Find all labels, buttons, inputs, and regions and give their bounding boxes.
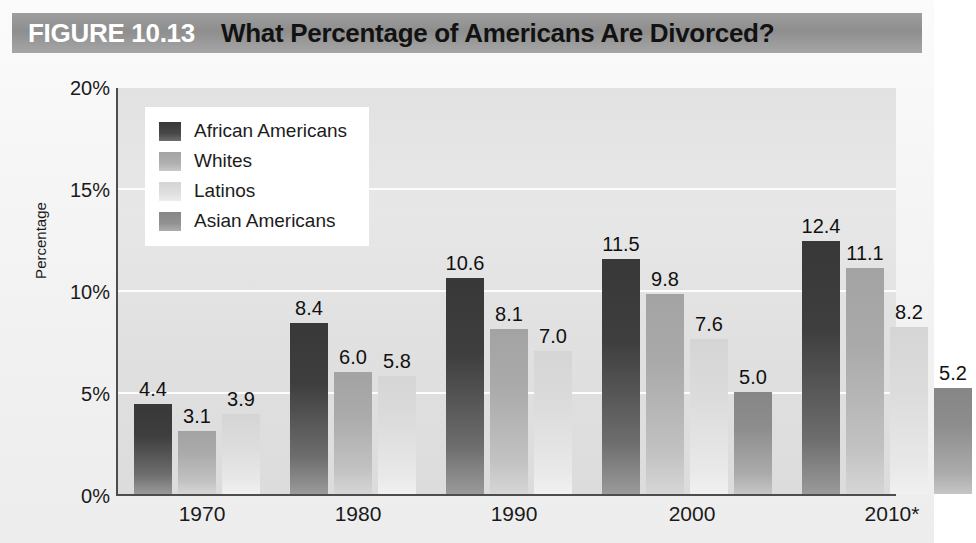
bar-fill [446,278,484,494]
bar-value: 12.4 [802,215,841,238]
y-tick-5: 5% [38,383,110,406]
bar-value: 8.4 [295,297,323,320]
legend-label: African Americans [194,120,347,142]
legend-swatch-latinos [159,182,181,201]
bar-fill [690,339,728,494]
y-tick-15: 15% [38,179,110,202]
bar-value: 3.1 [183,405,211,428]
bar-group-1990: 10.6 8.1 7.0 [446,88,586,494]
legend-swatch-asian-americans [159,212,181,231]
legend-label: Latinos [194,180,255,202]
bar-1970-african-americans[interactable]: 4.4 [134,404,172,494]
legend-label: Whites [194,150,252,172]
bar-1970-whites[interactable]: 3.1 [178,431,216,494]
bar-value: 6.0 [339,346,367,369]
bar-fill [602,259,640,494]
bar-value: 7.0 [539,325,567,348]
legend-item-whites[interactable]: Whites [159,146,359,176]
bar-2000-whites[interactable]: 9.8 [646,294,684,494]
legend-label: Asian Americans [194,210,336,232]
bar-1980-whites[interactable]: 6.0 [334,372,372,494]
bar-fill [334,372,372,494]
bar-fill [802,241,840,494]
bar-1990-latinos[interactable]: 7.0 [534,351,572,494]
bar-value: 10.6 [446,252,485,275]
bar-fill [178,431,216,494]
bar-value: 8.1 [495,303,523,326]
figure-title-bar: FIGURE 10.13 What Percentage of American… [12,13,922,53]
bar-fill [534,351,572,494]
bar-fill [134,404,172,494]
x-tick-1990: 1990 [491,502,538,526]
bar-fill [846,268,884,494]
x-tick-2010: 2010* [865,502,920,526]
y-tick-0: 0% [38,485,110,508]
bar-2010-whites[interactable]: 11.1 [846,268,884,494]
legend-item-latinos[interactable]: Latinos [159,176,359,206]
y-axis-ticks: 0% 5% 10% 15% 20% [38,0,110,543]
bar-2010-asian-americans[interactable]: 5.2 [934,388,972,494]
bar-value: 8.2 [895,301,923,324]
bar-1980-african-americans[interactable]: 8.4 [290,323,328,494]
bar-2000-latinos[interactable]: 7.6 [690,339,728,494]
bar-2010-african-americans[interactable]: 12.4 [802,241,840,494]
bar-2000-african-americans[interactable]: 11.5 [602,259,640,494]
x-tick-1970: 1970 [179,502,226,526]
bar-value: 3.9 [227,388,255,411]
bar-group-2000: 11.5 9.8 7.6 5.0 [602,88,786,494]
x-tick-2000: 2000 [669,502,716,526]
bar-fill [378,376,416,494]
x-tick-1980: 1980 [335,502,382,526]
bar-2000-asian-americans[interactable]: 5.0 [734,392,772,494]
bar-value: 9.8 [651,268,679,291]
bar-value: 4.4 [139,378,167,401]
bar-value: 11.5 [602,233,639,256]
bar-value: 11.1 [846,242,883,265]
legend-item-african-americans[interactable]: African Americans [159,116,359,146]
bar-1990-african-americans[interactable]: 10.6 [446,278,484,494]
figure-title: What Percentage of Americans Are Divorce… [221,18,774,49]
y-tick-20: 20% [38,77,110,100]
legend-item-asian-americans[interactable]: Asian Americans [159,206,359,236]
bar-fill [646,294,684,494]
bar-value: 5.0 [739,366,767,389]
bar-2010-latinos[interactable]: 8.2 [890,327,928,494]
bar-group-2010: 12.4 11.1 8.2 5.2 [802,88,976,494]
bar-fill [890,327,928,494]
bar-fill [222,414,260,494]
bar-1980-latinos[interactable]: 5.8 [378,376,416,494]
bar-fill [290,323,328,494]
bar-fill [490,329,528,494]
bar-fill [734,392,772,494]
legend-swatch-whites [159,152,181,171]
legend-swatch-african-americans [159,122,181,141]
bar-1970-latinos[interactable]: 3.9 [222,414,260,494]
chart-legend: African Americans Whites Latinos Asian A… [145,107,369,246]
bar-value: 5.2 [939,362,967,385]
bar-1990-whites[interactable]: 8.1 [490,329,528,494]
bar-fill [934,388,972,494]
bar-value: 5.8 [383,350,411,373]
x-axis-ticks: 1970 1980 1990 2000 2010* [116,502,896,540]
bar-value: 7.6 [695,313,723,336]
y-tick-10: 10% [38,281,110,304]
